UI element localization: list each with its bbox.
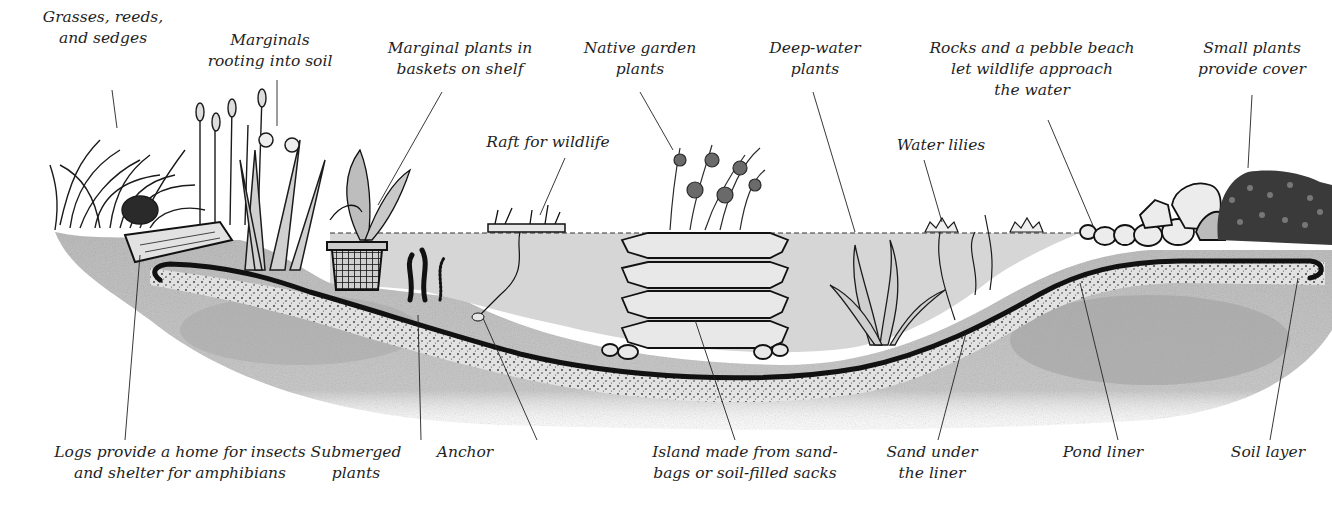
leader-line-grasses: [112, 90, 117, 128]
label-line: Deep-water: [769, 38, 860, 59]
label-line: Marginals: [208, 30, 333, 51]
label-line: baskets on shelf: [388, 59, 533, 80]
pebble-beach-rocks: [1080, 184, 1225, 246]
label-anchor: Anchor: [437, 442, 494, 463]
label-water-lilies: Water lilies: [897, 135, 986, 156]
label-line: plants: [584, 59, 697, 80]
label-marginals-baskets: Marginal plants inbaskets on shelf: [388, 38, 533, 80]
label-raft: Raft for wildlife: [486, 132, 610, 153]
label-line: provide cover: [1198, 59, 1306, 80]
label-line: rooting into soil: [208, 51, 333, 72]
label-line: Island made from sand-: [652, 442, 838, 463]
small-cover-plants: [1217, 170, 1332, 245]
label-grasses: Grasses, reeds,and sedges: [43, 7, 163, 49]
label-line: Logs provide a home for insects: [54, 442, 305, 463]
label-native-plants: Native gardenplants: [584, 38, 697, 80]
leader-line-water-lilies: [924, 160, 942, 222]
grasses-reeds-sedges: [50, 89, 266, 230]
label-small-plants: Small plantsprovide cover: [1198, 38, 1306, 80]
label-island: Island made from sand-bags or soil-fille…: [652, 442, 838, 484]
marginal-irises: [240, 133, 325, 270]
label-pond-liner: Pond liner: [1063, 442, 1143, 463]
leader-line-rocks-beach: [1048, 120, 1094, 228]
label-submerged: Submergedplants: [311, 442, 402, 484]
leader-line-deep-water: [813, 92, 855, 232]
label-line: Pond liner: [1063, 442, 1143, 463]
label-line: Sand under: [886, 442, 977, 463]
sandbag-island: [602, 233, 788, 359]
label-rocks-beach: Rocks and a pebble beachlet wildlife app…: [929, 38, 1134, 101]
leader-line-marginals-baskets: [378, 92, 442, 205]
label-line: the liner: [886, 463, 977, 484]
label-line: and sedges: [43, 28, 163, 49]
label-line: Grasses, reeds,: [43, 7, 163, 28]
label-line: Marginal plants in: [388, 38, 533, 59]
label-soil-layer: Soil layer: [1231, 442, 1305, 463]
label-line: plants: [311, 463, 402, 484]
label-logs: Logs provide a home for insectsand shelt…: [54, 442, 305, 484]
label-line: Rocks and a pebble beach: [929, 38, 1134, 59]
label-marginals-soil: Marginalsrooting into soil: [208, 30, 333, 72]
label-line: plants: [769, 59, 860, 80]
label-line: Raft for wildlife: [486, 132, 610, 153]
label-deep-water: Deep-waterplants: [769, 38, 860, 80]
label-line: Soil layer: [1231, 442, 1305, 463]
label-line: the water: [929, 80, 1134, 101]
leader-line-native-plants: [640, 92, 673, 150]
label-line: bags or soil-filled sacks: [652, 463, 838, 484]
label-sand: Sand underthe liner: [886, 442, 977, 484]
leader-line-small-plants: [1248, 95, 1252, 168]
label-line: Native garden: [584, 38, 697, 59]
label-line: Water lilies: [897, 135, 986, 156]
label-line: Small plants: [1198, 38, 1306, 59]
native-garden-plants: [670, 145, 765, 230]
label-line: Submerged: [311, 442, 402, 463]
leader-line-raft: [540, 158, 565, 215]
label-line: Anchor: [437, 442, 494, 463]
label-line: and shelter for amphibians: [54, 463, 305, 484]
label-line: let wildlife approach: [929, 59, 1134, 80]
